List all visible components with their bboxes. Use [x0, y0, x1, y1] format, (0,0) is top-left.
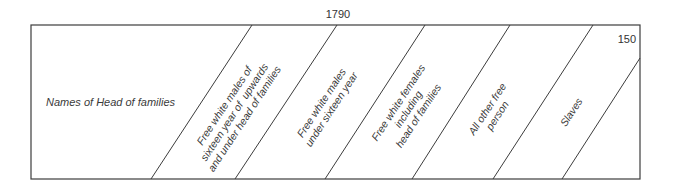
page-number: 150	[608, 33, 636, 45]
census-header-form: 1790 150 Names of Head of families Free …	[0, 0, 676, 191]
column-header-names: Names of Head of families	[46, 96, 175, 108]
